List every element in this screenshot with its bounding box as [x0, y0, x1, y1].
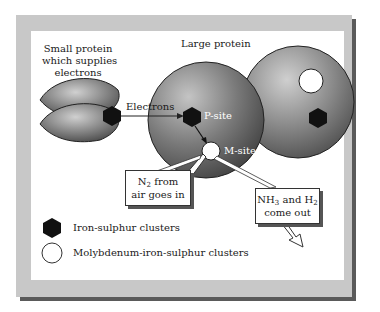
large-protein-label: Large protein [181, 38, 251, 50]
electrons-label: Electrons [126, 101, 174, 113]
n2-callout-line1: N2 from [126, 175, 190, 188]
n2-callout-line2: air goes in [126, 188, 190, 201]
nh3-callout-line2: come out [256, 206, 319, 219]
nh3-symbol: NH [257, 194, 274, 205]
nh3-callout-line1: NH3 and H2 [256, 193, 319, 206]
m-site-label: M-site [224, 145, 256, 157]
nh3-callout-box: NH3 and H2 come out [255, 188, 320, 224]
legend-item-molybdenum: Molybdenum-iron-sulphur clusters [73, 247, 249, 259]
legend-item-iron-sulphur: Iron-sulphur clusters [73, 222, 180, 234]
mo-fe-s-cluster-icon [299, 69, 323, 93]
h2-subscript: 2 [313, 199, 317, 207]
n2-from-text: from [151, 176, 178, 187]
small-protein-label: Small protein which supplies electrons [42, 43, 114, 79]
n2-symbol: N [138, 176, 147, 187]
p-site-label: P-site [204, 110, 232, 122]
small-protein-label-line1: Small protein [42, 43, 114, 55]
n2-callout-box: N2 from air goes in [125, 170, 191, 206]
legend-circle-icon [42, 243, 62, 263]
small-protein-label-line2: which supplies [42, 55, 114, 67]
h2-symbol: and H [279, 194, 313, 205]
small-protein-label-line3: electrons [42, 67, 114, 79]
diagram-figure: Small protein which supplies electrons L… [0, 0, 380, 312]
